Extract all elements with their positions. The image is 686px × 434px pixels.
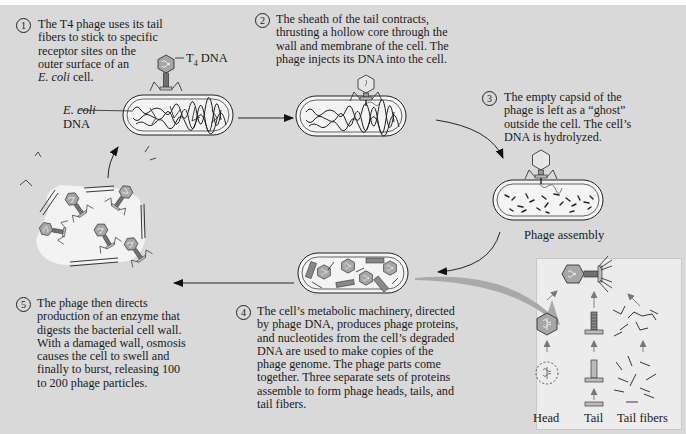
step-4-number: 4: [236, 305, 251, 320]
step-5-number: 5: [16, 297, 31, 312]
cell-2-injection: [296, 75, 406, 136]
t4-dna-label: T4 DNA: [186, 51, 228, 71]
phage-assembly-label: Phage assembly: [524, 228, 604, 242]
cell-5-lysis: [20, 146, 156, 267]
assembly-pathways: [536, 256, 658, 406]
tail-label: Tail: [584, 411, 603, 425]
cell-3-ghost: [493, 150, 603, 220]
cell-4-assembly: [298, 253, 408, 293]
step-3-number: 3: [482, 91, 497, 106]
step-2-text: The sheath of the tail contracts, thrust…: [276, 13, 449, 66]
ecoli-dna-label: E. coli DNA: [63, 103, 96, 131]
head-label: Head: [533, 411, 559, 425]
step-5-text: The phage then directs production of an …: [37, 297, 186, 390]
step-4-text: The cell’s metabolic machinery, directed…: [257, 305, 458, 411]
step-3-text: The empty capsid of the phage is left as…: [504, 91, 631, 144]
step-1-text: The T4 phage uses its tail fibers to sti…: [38, 18, 163, 84]
tail-fibers-label: Tail fibers: [617, 411, 668, 425]
step-1-number: 1: [16, 18, 31, 33]
step-2-number: 2: [255, 13, 270, 28]
